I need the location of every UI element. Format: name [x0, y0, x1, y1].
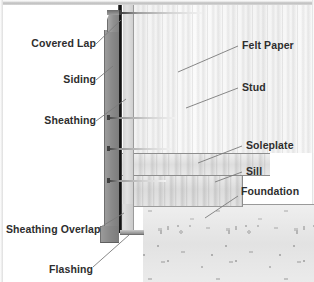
label-flashing: Flashing — [14, 264, 93, 275]
label-sheathing-overlap: Sheathing Overlap — [6, 224, 99, 235]
label-felt-paper: Felt Paper — [242, 40, 294, 51]
leader-line-flashing — [93, 235, 129, 267]
leader-line-foundation — [205, 196, 238, 218]
leader-line-sill — [215, 172, 242, 182]
label-covered-lap: Covered Lap — [14, 38, 96, 49]
leader-line-covered-lap — [96, 20, 121, 44]
label-siding: Siding — [14, 74, 96, 85]
leader-line-sheathing-overlap — [99, 213, 124, 228]
leader-line-sheathing — [96, 99, 126, 121]
label-sill: Sill — [246, 166, 262, 177]
leader-line-felt-paper — [178, 46, 238, 72]
leader-line-siding — [96, 66, 113, 80]
label-foundation: Foundation — [241, 186, 299, 197]
label-stud: Stud — [242, 82, 266, 93]
label-sheathing: Sheathing — [14, 115, 96, 126]
leader-line-soleplate — [198, 146, 242, 163]
wall-section-diagram: Covered Lap Siding Sheathing Sheathing O… — [0, 0, 314, 282]
label-soleplate: Soleplate — [246, 140, 294, 151]
leader-line-stud — [186, 88, 238, 108]
